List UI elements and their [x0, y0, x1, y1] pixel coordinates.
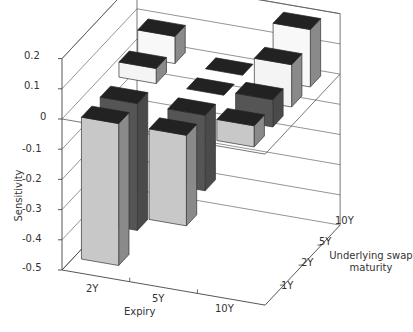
y-tick-label: 0.2	[24, 50, 40, 61]
x-axis-title: Expiry	[124, 306, 155, 317]
depth-tick-label: 2Y	[301, 257, 313, 268]
y-tick-label: -0.5	[22, 262, 42, 273]
depth-tick-label: 10Y	[335, 215, 354, 226]
depth-axis-title-line: maturity	[326, 262, 413, 274]
bar-side-face	[205, 104, 215, 191]
depth-axis-title-line: Underlying swap	[326, 250, 413, 262]
wall-edge	[62, 0, 137, 59]
bar-front-face	[81, 117, 118, 265]
x-tick-label: 5Y	[152, 293, 164, 304]
y-tick-label: 0.1	[24, 80, 40, 91]
back-wall-grid-line	[137, 0, 340, 14]
x-tick-label: 10Y	[215, 303, 234, 314]
depth-tick-label: 1Y	[281, 280, 293, 291]
y-tick-label: -0.4	[22, 233, 42, 244]
y-tick-label: -0.2	[22, 173, 42, 184]
y-tick-label: -0.1	[22, 143, 42, 154]
sensitivity-3d-bar-chart: 0.2 0.1 0 -0.1 -0.2 -0.3 -0.4 -0.5 Sensi…	[0, 0, 413, 332]
bar-top-flat	[205, 58, 253, 75]
y-tick-label: 0	[40, 111, 46, 122]
y-axis-title: Sensitivity	[13, 166, 24, 226]
bar-side-face	[310, 19, 320, 87]
bar-top-flat	[187, 78, 235, 95]
bar-side-face	[137, 93, 147, 231]
chart-canvas	[0, 0, 413, 332]
depth-axis-title: Underlying swap maturity	[326, 250, 413, 274]
wall-edge	[137, 0, 340, 14]
bar-side-face	[119, 113, 129, 266]
y-tick-label: -0.3	[22, 203, 42, 214]
depth-tick-label: 5Y	[319, 236, 331, 247]
bar-front-face	[149, 129, 186, 226]
bar-side-face	[186, 124, 196, 226]
x-tick-label: 2Y	[86, 283, 98, 294]
side-wall-grid-line	[62, 0, 137, 59]
